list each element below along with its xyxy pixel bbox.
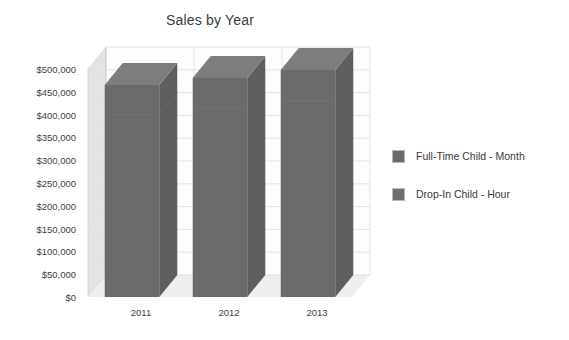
- legend-item[interactable]: Drop-In Child - Hour: [392, 186, 567, 202]
- legend-swatch-icon: [392, 150, 405, 163]
- legend-item-label: Drop-In Child - Hour: [416, 188, 510, 200]
- x-axis-tick-label: 2012: [199, 307, 259, 318]
- x-axis: 201120122013: [0, 0, 420, 340]
- x-axis-tick-label: 2011: [111, 307, 171, 318]
- legend-item-label: Full-Time Child - Month: [416, 150, 525, 162]
- legend-swatch-icon: [392, 188, 405, 201]
- chart-legend: Full-Time Child - Month Drop-In Child - …: [392, 148, 567, 224]
- x-axis-tick-label: 2013: [287, 307, 347, 318]
- legend-item[interactable]: Full-Time Child - Month: [392, 148, 567, 164]
- chart-container: Sales by Year $500,000$450,000$400,000$3…: [0, 0, 569, 340]
